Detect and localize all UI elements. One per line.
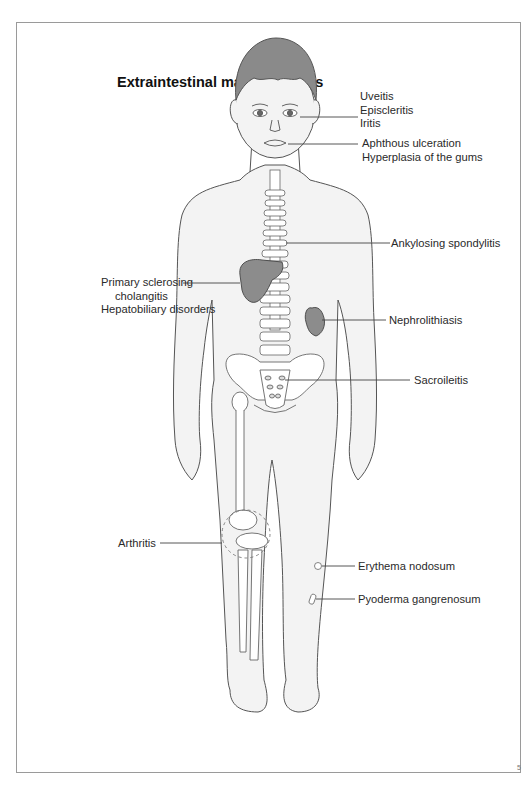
label-primary-sclerosing: Primary sclerosing (101, 276, 215, 290)
label-liver-group: Primary sclerosing cholangitis Hepatobil… (101, 276, 215, 317)
label-erythema-nodosum: Erythema nodosum (358, 559, 455, 573)
label-episcleritis: Episcleritis (360, 104, 413, 118)
label-hepatobiliary-disorders: Hepatobiliary disorders (101, 303, 215, 317)
label-sacroileitis: Sacroileitis (414, 373, 468, 387)
label-uveitis: Uveitis (360, 90, 413, 104)
label-ankylosing-spondylitis: Ankylosing spondylitis (391, 236, 500, 250)
label-cholangitis: cholangitis (101, 290, 215, 304)
body-illustration (0, 0, 531, 793)
label-eye-group: Uveitis Episcleritis Iritis (360, 90, 413, 131)
label-pyoderma-gangrenosum: Pyoderma gangrenosum (358, 592, 481, 606)
label-iritis: Iritis (360, 117, 413, 131)
label-nephrolithiasis: Nephrolithiasis (389, 313, 462, 327)
label-mouth-group: Aphthous ulceration Hyperplasia of the g… (362, 137, 483, 164)
label-gum-hyperplasia: Hyperplasia of the gums (362, 151, 483, 165)
label-aphthous-ulceration: Aphthous ulceration (362, 137, 483, 151)
label-arthritis: Arthritis (118, 536, 156, 550)
figure-number: 5 (517, 764, 521, 771)
